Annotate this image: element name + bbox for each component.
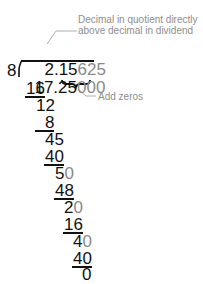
subtract-8: 8 [45,114,54,131]
dividend-added-zeros: 000 [77,78,105,97]
divisor: 8 [7,62,16,79]
subtract-16: 16 [26,80,45,97]
remainder-45: 45 [45,131,64,148]
subtract-48: 48 [55,182,74,199]
remainder-40: 40 [73,233,92,250]
remainder-12: 12 [36,97,55,114]
subtract-16b: 16 [64,216,83,233]
subtract-40: 40 [45,148,64,165]
remainder-20: 20 [64,199,83,216]
final-remainder: 0 [82,266,91,283]
remainder-50: 50 [55,165,74,182]
